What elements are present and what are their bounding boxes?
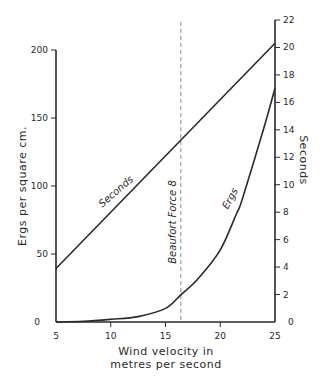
y-left-tick-label: 0 <box>34 317 40 327</box>
y-right-tick-label: 4 <box>283 262 289 272</box>
y-right-axis-title: Seconds <box>297 135 310 185</box>
x-tick-label: 20 <box>215 331 227 341</box>
y-right-tick-label: 14 <box>283 125 295 135</box>
x-tick-label: 10 <box>105 331 117 341</box>
y-left-tick-label: 50 <box>37 249 49 259</box>
y-right-tick-label: 8 <box>283 207 289 217</box>
series-label-ergs: Ergs <box>220 186 240 211</box>
x-tick-label: 5 <box>53 331 59 341</box>
beaufort-label: Beaufort Force 8 <box>167 180 178 264</box>
y-right-tick-label: 20 <box>283 42 295 52</box>
x-tick-label: 25 <box>269 331 280 341</box>
y-right-tick-label: 6 <box>283 235 289 245</box>
y-right-tick-label: 2 <box>283 290 289 300</box>
y-right-tick-label: 12 <box>283 152 294 162</box>
series-lines <box>56 43 275 322</box>
series-line-ergs <box>56 88 275 322</box>
y-left-axis-title: Ergs per square cm. <box>16 126 29 246</box>
wind-chart: 0501001502000246810121416182022510152025… <box>0 0 320 390</box>
y-left-tick-label: 100 <box>31 181 48 191</box>
x-axis-title-line2: metres per second <box>110 358 222 371</box>
y-right-tick-label: 16 <box>283 97 295 107</box>
y-right-tick-label: 0 <box>288 317 294 327</box>
x-tick-label: 15 <box>160 331 171 341</box>
x-axis-title-line1: Wind velocity in <box>118 345 214 358</box>
y-right-tick-label: 10 <box>283 180 295 190</box>
series-label-seconds: Seconds <box>96 173 135 209</box>
y-right-tick-label: 22 <box>283 15 294 25</box>
series-line-seconds <box>56 43 275 268</box>
y-left-tick-label: 200 <box>31 45 48 55</box>
y-left-tick-label: 150 <box>31 113 48 123</box>
y-right-tick-label: 18 <box>283 70 295 80</box>
